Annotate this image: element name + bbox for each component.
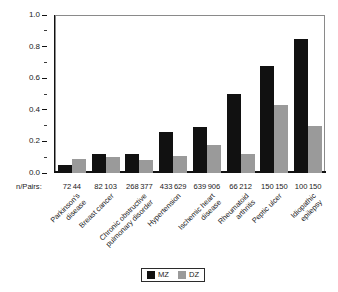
bar-group <box>294 15 322 173</box>
y-axis-tick-label: 0.0 <box>29 169 40 177</box>
y-axis-minor-tick <box>44 157 47 158</box>
bar-mz <box>294 39 308 173</box>
bar-mz <box>159 132 173 173</box>
npairs-dz-value: 44 <box>73 182 81 191</box>
chart-legend: MZDZ <box>141 268 205 282</box>
npairs-mz-value: 433 <box>160 182 173 191</box>
npairs-dz-value: 212 <box>239 182 252 191</box>
npairs-cell: 7244 <box>58 182 86 191</box>
y-axis-tick <box>42 109 47 110</box>
bar-dz <box>207 145 221 173</box>
bar-dz <box>308 126 322 173</box>
y-axis-minor-tick <box>44 94 47 95</box>
npairs-cell: 433629 <box>159 182 187 191</box>
bar-dz <box>72 159 86 173</box>
npairs-mz-value: 268 <box>126 182 139 191</box>
npairs-dz-value: 150 <box>275 182 288 191</box>
bar-mz <box>92 154 106 173</box>
y-axis-tick-label: 0.6 <box>29 74 40 82</box>
npairs-cell: 66212 <box>227 182 255 191</box>
y-axis-tick <box>42 46 47 47</box>
bar-dz <box>241 154 255 173</box>
y-axis-minor-tick <box>44 62 47 63</box>
npairs-dz-value: 150 <box>309 182 322 191</box>
bar-mz <box>125 154 139 173</box>
bars-layer <box>55 15 325 173</box>
y-axis-minor-tick <box>44 125 47 126</box>
bar-dz <box>274 105 288 173</box>
npairs-mz-value: 72 <box>63 182 71 191</box>
npairs-cell: 639906 <box>193 182 221 191</box>
y-axis-minor-tick <box>44 30 47 31</box>
y-axis-tick <box>42 141 47 142</box>
npairs-cell: 150150 <box>260 182 288 191</box>
bar-dz <box>173 156 187 173</box>
bar-mz <box>260 66 274 173</box>
chart-figure: Twin probandwise concordance 0.00.20.40.… <box>0 0 338 292</box>
bar-mz <box>227 94 241 173</box>
npairs-mz-value: 66 <box>229 182 237 191</box>
bar-group <box>260 15 288 173</box>
bar-mz <box>193 127 207 173</box>
npairs-cell: 268377 <box>125 182 153 191</box>
legend-swatch <box>147 271 155 279</box>
npairs-mz-value: 100 <box>295 182 308 191</box>
legend-swatch <box>178 271 186 279</box>
bar-group <box>227 15 255 173</box>
legend-entry: DZ <box>178 271 199 279</box>
y-axis-tick-label: 0.8 <box>29 43 40 51</box>
legend-label: DZ <box>189 271 199 279</box>
y-axis-tick-label: 0.4 <box>29 106 40 114</box>
y-axis-tick <box>42 173 47 174</box>
npairs-mz-value: 150 <box>261 182 274 191</box>
npairs-mz-value: 639 <box>193 182 206 191</box>
npairs-row-label: n/Pairs: <box>16 182 42 191</box>
y-axis-tick-label: 0.2 <box>29 137 40 145</box>
bar-group <box>125 15 153 173</box>
npairs-dz-value: 629 <box>174 182 187 191</box>
bar-dz <box>139 160 153 173</box>
npairs-mz-value: 82 <box>94 182 102 191</box>
npairs-cell: 100150 <box>294 182 322 191</box>
npairs-dz-value: 377 <box>140 182 153 191</box>
bar-group <box>92 15 120 173</box>
bar-mz <box>58 165 72 173</box>
y-axis: 0.00.20.40.60.81.0 <box>0 0 55 175</box>
npairs-dz-value: 906 <box>208 182 221 191</box>
y-axis-tick <box>42 78 47 79</box>
bar-group <box>58 15 86 173</box>
bar-dz <box>106 157 120 173</box>
y-axis-tick <box>42 15 47 16</box>
x-axis-category-labels: Parkinson's diseaseBreast cancerChronic … <box>55 192 335 260</box>
x-axis-category-label: Idiopathic epilepsy <box>248 192 324 268</box>
npairs-dz-value: 103 <box>104 182 117 191</box>
legend-entry: MZ <box>147 271 169 279</box>
npairs-row: 7244821032683774336296399066621215015010… <box>55 182 325 192</box>
npairs-cell: 82103 <box>92 182 120 191</box>
y-axis-tick-label: 1.0 <box>29 11 40 19</box>
bar-group <box>159 15 187 173</box>
legend-label: MZ <box>158 271 169 279</box>
bar-group <box>193 15 221 173</box>
